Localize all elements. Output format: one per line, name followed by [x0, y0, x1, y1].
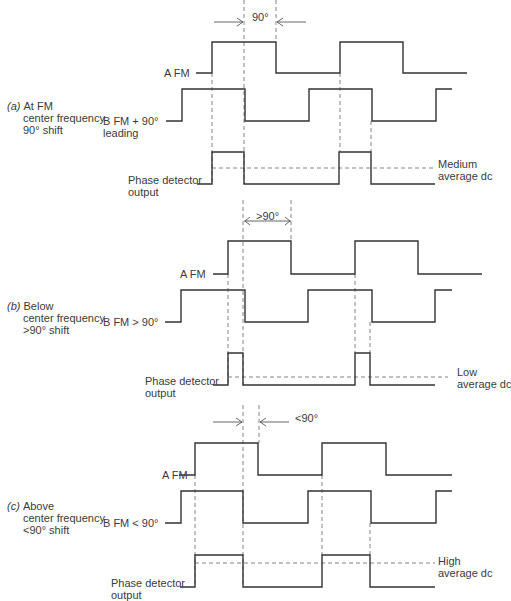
average-dc-result-label-line: High	[438, 555, 492, 567]
average-dc-result-label: Mediumaverage dc	[438, 158, 492, 182]
signal-b-waveform	[165, 290, 452, 322]
average-dc-result-label: Highaverage dc	[438, 555, 492, 579]
signal-b-label: B FM < 90°	[103, 517, 158, 529]
section-c: <90°	[165, 405, 452, 587]
section-title-line: >90° shift	[7, 324, 105, 336]
signal-a-label: A FM	[180, 268, 206, 280]
signal-a-waveform	[213, 241, 482, 274]
section-title-line: center frequency	[7, 312, 105, 324]
signal-a-label-line: A FM	[180, 268, 206, 280]
signal-a-label-line: A FM	[164, 67, 190, 79]
signal-a-waveform	[179, 443, 452, 475]
phase-angle-label: >90°	[256, 210, 279, 222]
section-title-line: 90° shift	[7, 124, 105, 136]
signal-a-label: A FM	[162, 469, 188, 481]
section-title-line: (b) Below	[7, 300, 105, 312]
output-label-line: output	[145, 387, 219, 399]
phase-detector-output-waveform	[197, 152, 435, 184]
signal-b-label: B FM + 90°leading	[103, 115, 158, 139]
section-title: (c) Abovecenter frequency<90° shift	[7, 500, 105, 536]
section-a: 90°	[166, 0, 467, 184]
output-label-line: output	[111, 589, 185, 601]
signal-a-label-line: A FM	[162, 469, 188, 481]
signal-a-waveform	[196, 42, 467, 73]
signal-b-label-line: leading	[103, 127, 158, 139]
section-title-line: center frequency	[7, 512, 105, 524]
phase-angle-label: 90°	[252, 11, 269, 23]
signal-b-waveform	[165, 491, 452, 523]
section-title: (b) Belowcenter frequency>90° shift	[7, 300, 105, 336]
phase-detector-output-waveform	[180, 555, 435, 587]
output-label-line: Phase detector	[111, 577, 185, 589]
section-title-line: (a) At FM	[7, 100, 105, 112]
section-title-line: (c) Above	[7, 500, 105, 512]
average-dc-result-label-line: average dc	[438, 170, 492, 182]
output-label: Phase detectoroutput	[128, 174, 202, 198]
phase-angle-label: <90°	[295, 412, 318, 424]
signal-b-label: B FM > 90°	[103, 316, 158, 328]
average-dc-result-label-line: average dc	[457, 378, 511, 390]
section-title: (a) At FMcenter frequency90° shift	[7, 100, 105, 136]
average-dc-result-label-line: Medium	[438, 158, 492, 170]
average-dc-result-label: Lowaverage dc	[457, 366, 511, 390]
output-label-line: output	[128, 186, 202, 198]
phase-detector-output-waveform	[213, 353, 435, 385]
signal-b-label-line: B FM < 90°	[103, 517, 158, 529]
signal-b-waveform	[166, 89, 452, 121]
output-label: Phase detectoroutput	[145, 375, 219, 399]
output-label: Phase detectoroutput	[111, 577, 185, 601]
output-label-line: Phase detector	[145, 375, 219, 387]
average-dc-result-label-line: average dc	[438, 567, 492, 579]
signal-b-label-line: B FM + 90°	[103, 115, 158, 127]
average-dc-result-label-line: Low	[457, 366, 511, 378]
section-title-line: center frequency	[7, 112, 105, 124]
output-label-line: Phase detector	[128, 174, 202, 186]
signal-b-label-line: B FM > 90°	[103, 316, 158, 328]
signal-a-label: A FM	[164, 67, 190, 79]
section-title-line: <90° shift	[7, 524, 105, 536]
section-b: >90°	[165, 200, 482, 385]
phase-angle-arrow-icon	[213, 418, 289, 426]
